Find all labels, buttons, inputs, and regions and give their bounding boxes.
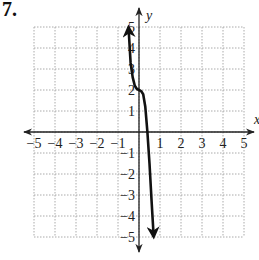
y-tick-label: −3 [120, 188, 135, 203]
x-tick-label: −2 [90, 136, 105, 151]
x-tick-label: −4 [48, 136, 63, 151]
y-tick-label: −5 [120, 230, 135, 245]
y-tick-label: −1 [120, 146, 135, 161]
y-axis-label: y [144, 8, 153, 23]
x-tick-label: −5 [27, 136, 42, 151]
x-tick-label: 5 [241, 136, 248, 151]
x-tick-label: 4 [220, 136, 227, 151]
axes: yx [24, 8, 259, 252]
y-tick-label: 1 [128, 104, 135, 119]
x-tick-label: 3 [199, 136, 206, 151]
y-tick-label: −4 [120, 209, 135, 224]
graph: yx −5−4−3−2−11234554321−1−2−3−4−5 [0, 0, 259, 260]
x-tick-label: 2 [178, 136, 185, 151]
x-tick-label: −3 [69, 136, 84, 151]
x-axis-label: x [253, 112, 259, 127]
y-tick-label: −2 [120, 167, 135, 182]
x-tick-label: 1 [157, 136, 164, 151]
